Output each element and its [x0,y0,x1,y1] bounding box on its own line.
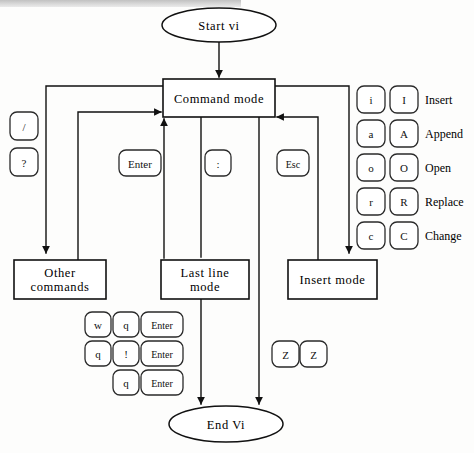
key-legend-3-action: Open [425,161,451,175]
flowchart-canvas: Start vi Command mode Other commands Las… [0,0,474,453]
node-end-vi-label: End Vi [207,418,245,432]
key-quit-row1-1-label: w [94,319,102,331]
node-other-commands-label-line2: commands [31,280,90,294]
key-quit-row3-2-label: Enter [151,378,173,389]
key-legend-4-upper-label: R [400,196,408,208]
scan-edge-artifact [0,0,241,7]
key-legend-1-action: Insert [425,93,453,107]
key-colon-label: : [216,158,219,170]
vi-mode-flowchart: Start vi Command mode Other commands Las… [0,0,474,453]
key-question-label: ? [22,157,27,169]
key-legend-1-upper-label: I [402,94,406,106]
key-enter-to-command-label: Enter [128,158,152,170]
key-esc-label: Esc [286,159,301,170]
key-quit-row1-3-label: Enter [151,320,173,331]
key-legend-2-upper-label: A [400,128,408,140]
node-last-line-mode-label-line2: mode [190,280,220,294]
key-legend-3-upper-label: O [400,162,408,174]
key-legend-1-lower-label: i [369,94,372,106]
key-quit-row2-2-label: ! [124,348,128,360]
edge-other-commands-to-command [78,112,161,260]
key-quit-row1-2-label: q [123,319,129,331]
node-last-line-mode-label-line1: Last line [181,266,230,280]
node-other-commands-label-line1: Other [44,266,76,280]
key-legend-2-action: Append [425,127,463,141]
key-legend-2-lower-label: a [369,128,374,140]
edge-insert-to-command [277,117,318,260]
key-quit-row2-1-label: q [95,348,101,360]
key-zz-2-label: Z [310,349,317,361]
key-legend-4-action: Replace [425,195,464,209]
key-legend-5-upper-label: C [400,230,407,242]
key-legend-4-lower-label: r [369,196,373,208]
key-legend-3-lower-label: o [368,162,374,174]
key-quit-row3-1-label: q [123,377,129,389]
key-quit-row2-3-label: Enter [151,349,173,360]
node-insert-mode-label: Insert mode [300,273,366,287]
node-command-mode-label: Command mode [174,92,264,106]
key-legend-5-action: Change [425,229,462,243]
key-legend-5-lower-label: c [369,230,374,242]
node-start-vi-label: Start vi [198,19,239,33]
key-zz-1-label: Z [282,349,289,361]
